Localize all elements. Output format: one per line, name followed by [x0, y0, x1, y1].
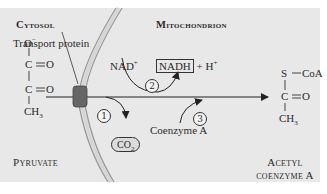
acetyl-c: C: [281, 91, 288, 102]
pyruvate-bonds: [29, 48, 45, 104]
acetyl-s: S: [281, 68, 287, 79]
coenzyme-a-label: Coenzyme A: [150, 125, 207, 136]
pyruvate-ch3: CH3: [24, 106, 43, 120]
mitochondrion-label: Mitochondrion: [156, 20, 227, 31]
acetyl-o: O: [302, 91, 310, 102]
step-2-marker: 2: [145, 76, 159, 93]
pyruvate-c2: C: [25, 84, 32, 95]
acetyl-label-line2: coenzyme A: [238, 170, 327, 181]
nadh-label: NADH: [156, 59, 194, 73]
cytosol-label: Cytosol: [16, 20, 55, 31]
acetyl-ch3: CH3: [279, 113, 298, 127]
transport-protein-icon: [73, 86, 87, 107]
pyruvate-o2: O: [46, 84, 54, 95]
pyruvate-o1: O: [46, 59, 54, 70]
nad-plus-label: NAD+: [110, 60, 138, 72]
nadh-product: NADH + H+: [156, 60, 217, 72]
pyruvate-label: Pyruvate: [13, 157, 58, 168]
pyruvate-c1: C: [25, 59, 32, 70]
acetyl-label-line1: Acetyl: [255, 157, 315, 168]
pyruvate-o-minus: O−: [24, 37, 36, 49]
co2-badge: CO2: [111, 139, 140, 153]
acetyl-coa-group: CoA: [302, 68, 323, 79]
step-1-marker: 1: [97, 106, 111, 123]
